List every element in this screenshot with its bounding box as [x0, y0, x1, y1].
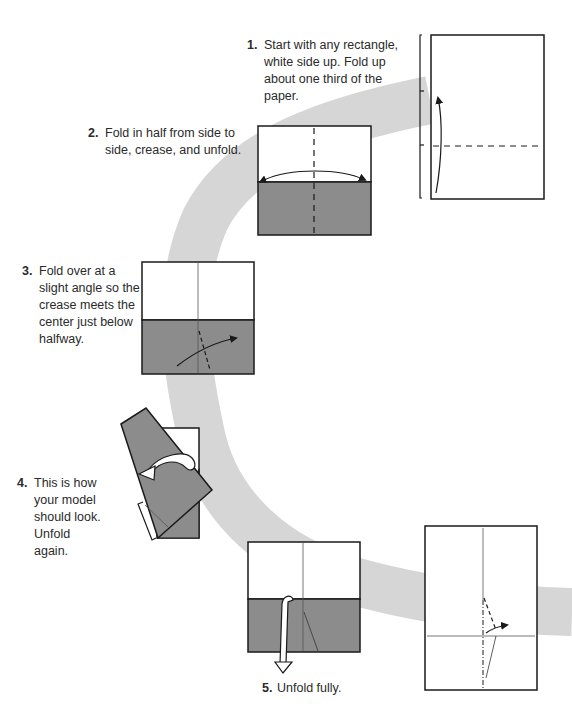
step-6-diagram: [425, 526, 537, 690]
step-number: 5.: [262, 680, 272, 697]
step-number: 3.: [22, 263, 32, 280]
step-2-instruction: 2. Fold in half from side to side, creas…: [88, 125, 248, 159]
step-number: 1.: [247, 37, 257, 54]
step-text: Fold over at a slight angle so the creas…: [39, 263, 147, 348]
step-1-instruction: 1. Start with any rectangle, white side …: [247, 37, 417, 105]
step-5-instruction: 5. Unfold fully.: [262, 680, 382, 697]
step-1-diagram: [420, 35, 544, 199]
step-2-diagram: [258, 126, 371, 235]
step-text: Start with any rectangle, white side up.…: [264, 37, 417, 105]
step-3-instruction: 3. Fold over at a slight angle so the cr…: [22, 263, 147, 348]
step-number: 2.: [88, 125, 98, 142]
step-5-diagram: [248, 542, 360, 673]
step-text: Unfold fully.: [277, 680, 382, 697]
step-text: This is how your model should look. Unfo…: [34, 475, 107, 560]
step-number: 4.: [17, 475, 27, 492]
origami-diagram: [0, 0, 572, 711]
step-text: Fold in half from side to side, crease, …: [105, 125, 248, 159]
step-4-instruction: 4. This is how your model should look. U…: [17, 475, 107, 560]
step-3-diagram: [142, 262, 254, 374]
step-4-diagram: [121, 408, 212, 540]
